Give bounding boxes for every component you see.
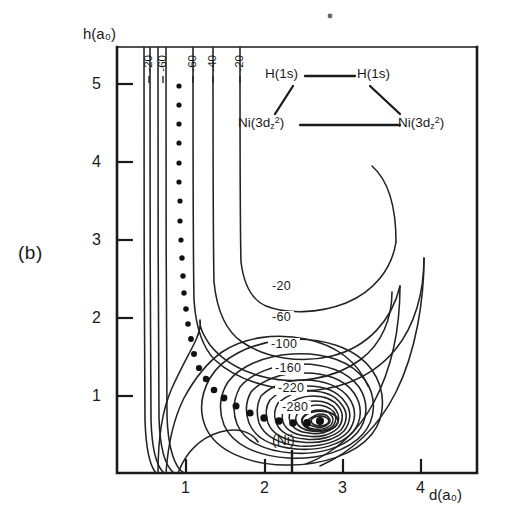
contour-label-minus-100: -100 xyxy=(268,338,300,351)
contour-label-minus-280: -280 xyxy=(279,401,311,414)
inset-label-ni3dz2-right: Ni(3dz2) xyxy=(398,116,444,131)
surface-position-label: (Ni) xyxy=(272,433,295,447)
contour-plot-figure: (b) h(a₀) d(a₀) 5 4 3 2 1 1 2 3 4 (Ni) -… xyxy=(0,0,505,525)
x-tick-label-3: 3 xyxy=(338,480,347,496)
top-label-ticks xyxy=(149,76,240,83)
y-tick-label-2: 2 xyxy=(92,310,101,326)
top-contour-label-5: -20 xyxy=(234,55,246,72)
top-contour-label-1: -20 xyxy=(143,55,155,72)
contour-label-minus-220: -220 xyxy=(275,382,307,395)
panel-label: (b) xyxy=(18,243,43,262)
y-tick-label-5: 5 xyxy=(92,76,101,92)
x-tick-label-2: 2 xyxy=(260,480,269,496)
y-tick-label-3: 3 xyxy=(92,232,101,248)
y-axis-title: h(a₀) xyxy=(83,26,116,41)
x-axis-title: d(a₀) xyxy=(429,487,462,502)
top-contour-label-2: -60 xyxy=(157,55,169,72)
top-contour-label-4: -40 xyxy=(207,55,219,72)
contour-label-minus-160: -160 xyxy=(272,362,304,375)
x-axis-ticks xyxy=(186,459,421,473)
inset-label-h1s-left: H(1s) xyxy=(265,67,298,81)
inset-label-ni3dz2-left: Ni(3dz2) xyxy=(238,116,284,131)
contour-label-minus-20: -20 xyxy=(269,280,294,293)
contour-label-minus-60: -60 xyxy=(269,311,294,324)
contour-level-minus-20 xyxy=(240,47,396,312)
inset-right-main: Ni(3d xyxy=(398,115,430,130)
y-tick-label-1: 1 xyxy=(92,388,101,404)
inset-left-main: Ni(3d xyxy=(238,115,270,130)
x-tick-label-4: 4 xyxy=(416,480,425,496)
inset-bond-lines xyxy=(275,76,400,125)
scan-artifact-speck xyxy=(328,14,333,19)
y-tick-label-4: 4 xyxy=(92,154,101,170)
top-contour-label-3: -60 xyxy=(187,55,199,72)
y-axis-ticks xyxy=(117,84,133,396)
x-tick-label-1: 1 xyxy=(181,480,190,496)
inset-left-close: ) xyxy=(280,115,285,130)
contour-plot-canvas xyxy=(0,0,505,525)
inset-label-h1s-right: H(1s) xyxy=(357,67,390,81)
inset-right-close: ) xyxy=(440,115,445,130)
